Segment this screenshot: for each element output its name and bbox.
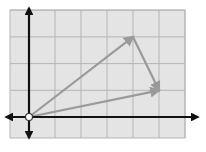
vector-diagram (0, 0, 206, 152)
origin-marker (26, 114, 33, 121)
